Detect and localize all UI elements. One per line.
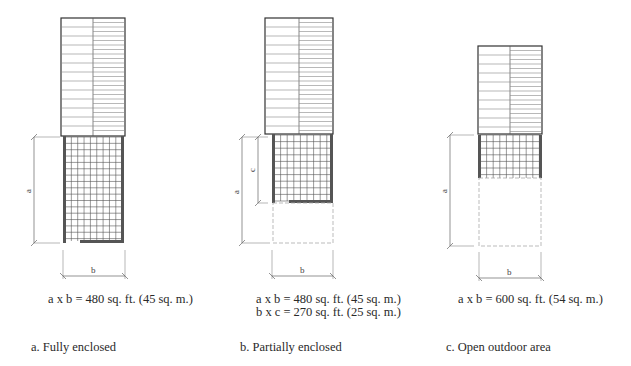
panel-b-dim-c-label: c <box>247 168 257 172</box>
panel-c-right-post <box>539 135 542 178</box>
panel-c-building <box>478 46 542 134</box>
panel-b-right-wall <box>330 134 333 203</box>
panel-b-caption: b. Partially enclosed <box>240 340 342 355</box>
panel-a-right-wall <box>121 136 124 243</box>
panel-a-building <box>61 18 125 136</box>
panel-a-dim-a-label: a <box>23 189 33 193</box>
panel-a-bottom-wall <box>80 240 124 243</box>
panel-b-open-area-dashed <box>273 203 333 243</box>
panel-b-formula-2: b x c = 270 sq. ft. (25 sq. m.) <box>256 306 401 319</box>
panel-c-left-post <box>478 135 481 178</box>
panel-c-open-area-dashed <box>479 178 541 246</box>
panel-c-dim-b-label: b <box>507 267 512 277</box>
panel-c-caption: c. Open outdoor area <box>446 340 551 355</box>
panel-c-roofed-grid <box>480 135 540 178</box>
panel-a-drawing: a b <box>23 18 128 279</box>
panel-b-enclosed-grid <box>274 135 331 201</box>
panel-c-dim-a-label: a <box>439 189 449 193</box>
panel-a-enclosed-grid <box>65 137 122 241</box>
panel-b-dim-b-label: b <box>300 265 305 275</box>
panel-b-dim-a-label: a <box>231 190 241 194</box>
panel-b-building <box>265 18 333 134</box>
panel-b-left-wall <box>272 134 275 203</box>
panel-b-drawing: a c b <box>231 18 336 279</box>
panel-a-left-wall <box>63 136 66 243</box>
panel-c-formula: a x b = 600 sq. ft. (54 sq. m.) <box>458 293 603 306</box>
panel-b-bottom-wall <box>289 200 333 203</box>
panel-a-caption: a. Fully enclosed <box>31 340 116 355</box>
panel-a-formula: a x b = 480 sq. ft. (45 sq. m.) <box>48 293 193 306</box>
panel-a-dim-b-label: b <box>91 265 96 275</box>
panel-c-drawing: a b <box>439 46 544 281</box>
